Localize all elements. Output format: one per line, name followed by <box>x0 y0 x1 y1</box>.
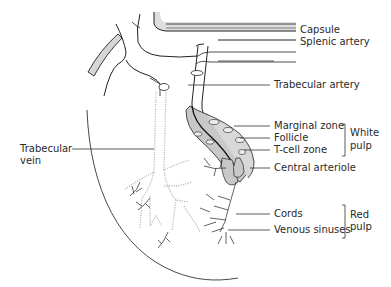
label-central-arteriole: Central arteriole <box>274 162 356 174</box>
label-cords: Cords <box>274 208 303 220</box>
group-white-pulp-2: pulp <box>350 140 372 152</box>
label-trabecular-vein-2: vein <box>20 155 41 167</box>
label-venous-sinuses: Venous sinuses <box>274 224 351 236</box>
label-marginal-zone: Marginal zone <box>274 120 344 132</box>
label-follicle: Follicle <box>274 132 308 144</box>
label-trabecular-artery: Trabecular artery <box>274 79 360 91</box>
artery-cross-section <box>191 71 203 76</box>
group-red-pulp-2: pulp <box>350 221 372 233</box>
label-trabecular-vein-1: Trabecular <box>20 143 72 155</box>
vein-cross-section <box>159 84 169 91</box>
trabecular-vein-trunk <box>104 24 126 96</box>
label-t-cell-zone: T-cell zone <box>274 144 327 156</box>
label-capsule: Capsule <box>300 24 340 36</box>
group-red-pulp-1: Red <box>350 209 369 221</box>
left-capsule-band <box>88 34 122 76</box>
capillary-branches <box>130 158 236 248</box>
label-splenic-artery: Splenic artery <box>300 36 370 48</box>
group-white-pulp-1: White <box>350 127 379 139</box>
